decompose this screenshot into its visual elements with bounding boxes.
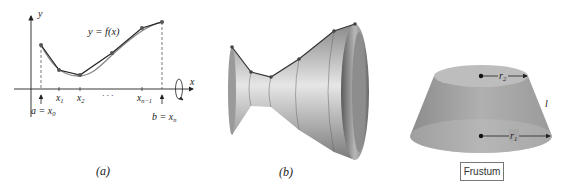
frustum-label-box: Frustum — [460, 162, 504, 181]
tick-label-dots: · · · — [102, 90, 113, 100]
tick-label-xn-1: xn−1 — [136, 93, 152, 104]
caption-b: (b) — [279, 165, 293, 180]
label-a-x0: a = x0 — [31, 105, 56, 117]
tick-label-x2: x2 — [76, 93, 85, 104]
y-axis-label: y — [37, 8, 43, 19]
x-axis-label: x — [189, 76, 195, 87]
bottom-center-point — [479, 134, 483, 138]
tick-label-x1: x1 — [55, 93, 63, 104]
right-rim-inner — [352, 32, 366, 152]
left-rim — [228, 47, 236, 135]
label-b-xn: b = xn — [152, 111, 176, 123]
label-slant-l: l — [545, 98, 548, 109]
caption-a: (a) — [96, 164, 110, 179]
surface-body — [232, 24, 355, 160]
figure-canvas: y x y = f(x) x1 x2 · · · xn−1 a = x0 b =… — [0, 0, 561, 185]
panel-frustum: r2 r1 l — [410, 65, 552, 153]
top-center-point — [479, 74, 483, 78]
curve-label: y = f(x) — [87, 26, 120, 38]
panel-b-surface — [228, 22, 369, 160]
rotation-arrow-icon — [176, 79, 184, 100]
panel-a-graph: y x y = f(x) x1 x2 · · · xn−1 a = x0 b =… — [14, 8, 195, 123]
